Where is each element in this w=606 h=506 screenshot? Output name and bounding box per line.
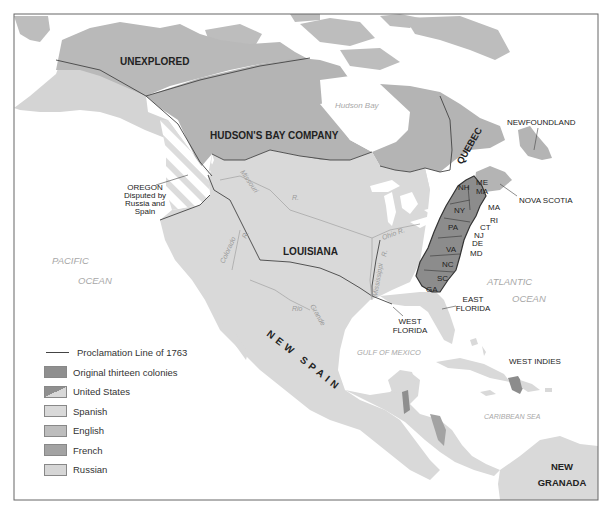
legend-label: English: [73, 425, 104, 436]
label-east-florida-2: FLORIDA: [456, 304, 491, 313]
legend-item-spanish: Spanish: [44, 402, 224, 422]
legend-item-french: French: [44, 441, 224, 461]
legend-label: United States: [73, 386, 130, 397]
legend-item-united-states: United States: [44, 382, 224, 402]
united-states-swatch: [44, 386, 67, 398]
label-west-indies: WEST INDIES: [509, 357, 561, 366]
label-east-florida-1: EAST: [463, 295, 484, 304]
label-hudson-bay: Hudson Bay: [335, 101, 380, 110]
label-ma-inner: MA: [476, 187, 489, 196]
label-new-granada-2: GRANADA: [538, 477, 587, 488]
label-md: MD: [470, 249, 483, 258]
caribbean-islands: [436, 338, 552, 396]
new-granada-region: [498, 436, 598, 500]
proclamation-line-swatch: [46, 352, 69, 353]
label-me: ME: [476, 178, 488, 187]
legend-item-proclamation-line: Proclamation Line of 1763: [44, 343, 224, 363]
french-swatch: [44, 444, 67, 456]
label-pacific-1: PACIFIC: [52, 255, 89, 266]
label-mississippi-r: R.: [380, 249, 388, 257]
label-west-florida-2: FLORIDA: [393, 326, 428, 335]
label-atlantic-2: OCEAN: [512, 293, 546, 304]
label-atlantic-1: ATLANTIC: [486, 276, 532, 287]
label-oregon-4: Spain: [135, 207, 155, 216]
legend-item-english: English: [44, 421, 224, 441]
legend-label: French: [73, 445, 103, 456]
label-nova-scotia: NOVA SCOTIA: [519, 196, 573, 205]
label-pacific-2: OCEAN: [78, 275, 112, 286]
label-pa: PA: [448, 223, 459, 232]
label-hudsons-bay-company: HUDSON'S BAY COMPANY: [210, 130, 339, 141]
label-missouri-r: R.: [292, 194, 299, 201]
map-legend: Proclamation Line of 1763 Original thirt…: [44, 343, 224, 480]
label-nc: NC: [442, 260, 454, 269]
label-newfoundland: NEWFOUNDLAND: [507, 118, 576, 127]
label-rio: Rio: [292, 305, 303, 312]
label-caribbean-sea: CARIBBEAN SEA: [484, 413, 541, 420]
label-de: DE: [472, 239, 483, 248]
label-new-granada-1: NEW: [551, 461, 573, 472]
label-ma: MA: [488, 203, 501, 212]
label-unexplored: UNEXPLORED: [120, 56, 189, 67]
label-ga: GA: [426, 285, 438, 294]
russian-swatch: [44, 464, 67, 476]
label-west-florida-1: WEST: [398, 317, 421, 326]
legend-label: Spanish: [73, 406, 107, 417]
label-gulf-of-mexico: GULF OF MEXICO: [357, 348, 421, 357]
legend-label: Russian: [73, 464, 107, 475]
label-va: VA: [446, 245, 457, 254]
spanish-swatch: [44, 405, 67, 417]
legend-item-thirteen-colonies: Original thirteen colonies: [44, 363, 224, 383]
label-nh: NH: [458, 183, 470, 192]
label-ny: NY: [454, 206, 466, 215]
legend-item-russian: Russian: [44, 460, 224, 480]
legend-label: Proclamation Line of 1763: [77, 347, 187, 358]
thirteen-colonies-swatch: [44, 366, 67, 378]
label-ri: RI: [490, 216, 498, 225]
label-louisiana: LOUISIANA: [283, 246, 338, 257]
english-swatch: [44, 425, 67, 437]
label-sc: SC: [437, 274, 448, 283]
legend-label: Original thirteen colonies: [73, 367, 178, 378]
